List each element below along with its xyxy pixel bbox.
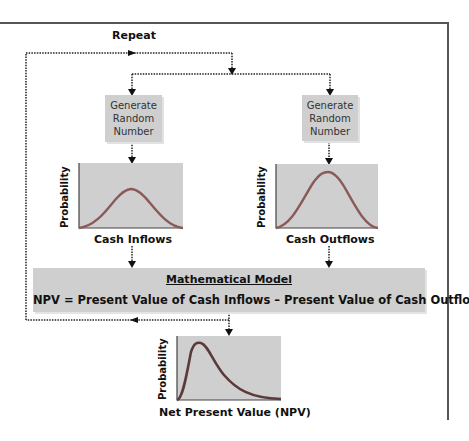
gen-box-line: Number <box>307 125 354 138</box>
y-axis-label-inflows: Probability <box>59 166 70 228</box>
y-axis-label-npv: Probability <box>157 338 168 400</box>
chart-cash-inflows <box>79 163 183 228</box>
repeat-label: Repeat <box>112 29 156 42</box>
gen-box-line: Random <box>110 112 157 125</box>
generate-random-number-box-outflows: Generate Random Number <box>302 95 358 141</box>
gen-box-line: Generate <box>110 99 157 112</box>
model-title: Mathematical Model <box>33 273 425 286</box>
x-axis-label-outflows: Cash Outflows <box>286 233 375 246</box>
mathematical-model-box: Mathematical Model NPV = Present Value o… <box>33 268 425 312</box>
flow-connectors <box>0 0 469 441</box>
gen-box-line: Generate <box>307 99 354 112</box>
chart-npv <box>177 336 281 400</box>
gen-box-line: Random <box>307 112 354 125</box>
x-axis-label-inflows: Cash Inflows <box>94 233 172 246</box>
model-equation: NPV = Present Value of Cash Inflows – Pr… <box>33 293 425 307</box>
gen-box-line: Number <box>110 125 157 138</box>
x-axis-label-npv: Net Present Value (NPV) <box>159 406 311 419</box>
chart-cash-outflows <box>276 164 378 228</box>
y-axis-label-outflows: Probability <box>256 166 267 228</box>
generate-random-number-box-inflows: Generate Random Number <box>105 95 162 142</box>
